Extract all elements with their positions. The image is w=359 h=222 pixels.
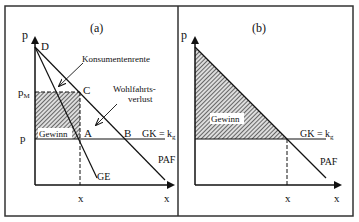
point-a: A	[84, 127, 92, 139]
x-axis-label-b: x	[334, 192, 340, 204]
demand-label-b: PAF	[320, 156, 338, 167]
panel-a: (a) Gewinn p x D C A B pM p x Konsumente…	[18, 21, 176, 204]
point-c: C	[83, 84, 90, 96]
point-b: B	[124, 127, 131, 139]
demand-label: PAF	[158, 154, 176, 165]
y-axis-label-b: p	[181, 28, 187, 42]
monopoly-diagram: (a) Gewinn p x D C A B pM p x Konsumente…	[0, 0, 359, 222]
profit-label-b: Gewinn	[211, 114, 240, 124]
x-tick-label: x	[78, 192, 84, 204]
point-d: D	[41, 40, 49, 52]
p-label: p	[20, 132, 26, 144]
marginal-revenue-label: GE	[97, 171, 110, 182]
panel-a-title: (a)	[90, 21, 103, 35]
pm-label: pM	[18, 86, 31, 100]
deadweight-label-1: Wohlfahrts-	[113, 84, 156, 94]
y-axis-label: p	[22, 28, 28, 42]
x-tick-label-b: x	[285, 192, 291, 204]
consumer-surplus-label: Konsumentenrente	[82, 54, 150, 64]
panel-b: (b) Gewinn p x GK = kg PAF x	[181, 21, 340, 204]
x-axis-label: x	[164, 192, 170, 204]
panel-b-title: (b)	[252, 21, 266, 35]
deadweight-label-2: verlust	[128, 94, 153, 104]
profit-label: Gewinn	[39, 129, 68, 139]
deadweight-arrow	[96, 104, 117, 125]
